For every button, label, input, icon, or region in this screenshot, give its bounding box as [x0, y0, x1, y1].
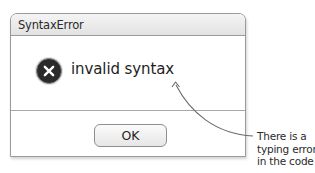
dialog-titlebar[interactable]: SyntaxError	[11, 14, 245, 36]
dialog-separator	[11, 110, 245, 111]
annotation-line: There is a	[257, 130, 315, 143]
dialog-title: SyntaxError	[18, 18, 84, 32]
error-message: invalid syntax	[71, 60, 174, 78]
syntax-error-dialog: SyntaxError invalid syntax OK	[10, 13, 246, 157]
ok-button[interactable]: OK	[94, 124, 167, 147]
error-x-circle-icon	[36, 58, 62, 84]
annotation-line: typing error	[257, 143, 315, 156]
annotation-line: in the code	[257, 155, 315, 168]
annotation-callout: There is a typing error in the code	[257, 130, 315, 168]
